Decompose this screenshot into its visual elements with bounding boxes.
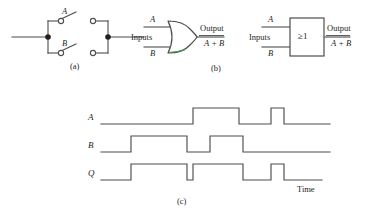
or-gate-input-b-label: B [150, 49, 155, 58]
panel-b-caption: (b) [211, 64, 221, 73]
iec-threshold-symbol: ≥1 [298, 32, 307, 41]
figure-vector-artwork [0, 0, 369, 213]
or-gate-body [168, 21, 197, 53]
junction-dots [45, 34, 111, 40]
iec-output-label: Output [327, 24, 351, 33]
panel-c-timing-diagram [101, 108, 330, 180]
iec-input-b-label: B [268, 49, 273, 58]
waveform-b-trace [101, 136, 330, 152]
panel-a-switch-circuit [12, 12, 144, 53]
or-gate-output-expression: A + B [204, 39, 224, 48]
left-junction-dot [45, 34, 51, 40]
switch-a-left-contact [58, 18, 63, 23]
iec-inputs-label: Inputs [249, 33, 270, 42]
or-gate-output-label: Output [200, 24, 224, 33]
panel-c-caption: (c) [177, 197, 186, 206]
switch-a-label: A [62, 7, 67, 16]
or-logic-figure: A B (a) A B Inputs Output A + B (b) A B … [0, 0, 369, 213]
waveform-a-trace [101, 108, 330, 124]
or-gate-input-a-label: A [150, 15, 155, 24]
waveform-q-trace [101, 164, 322, 180]
iec-input-a-label: A [268, 15, 273, 24]
panel-a-caption: (a) [70, 62, 79, 71]
switch-b-left-contact [58, 50, 63, 55]
or-gate-inputs-label: Inputs [131, 33, 152, 42]
waveform-q-label: Q [88, 169, 95, 178]
switch-b-right-contact [90, 50, 95, 55]
waveform-b-label: B [88, 141, 94, 150]
right-junction-dot [105, 34, 111, 40]
iec-output-expression: A + B [331, 39, 351, 48]
waveform-a-label: A [88, 113, 94, 122]
switch-b-label: B [62, 39, 67, 48]
time-axis-label: Time [297, 185, 315, 194]
switch-a-right-contact [90, 18, 95, 23]
